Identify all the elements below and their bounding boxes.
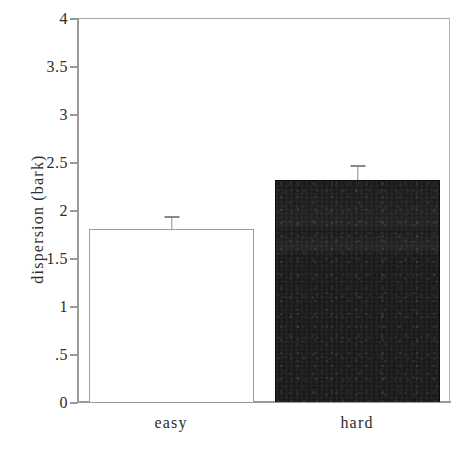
y-tick-label-2: 2 bbox=[32, 203, 68, 219]
y-tick-label-0: 0 bbox=[32, 395, 68, 411]
error-bar-stem bbox=[357, 165, 358, 180]
y-tick-label-3-5: 3.5 bbox=[32, 59, 68, 75]
error-bar-easy bbox=[164, 216, 179, 229]
x-tick-label-hard: hard bbox=[287, 414, 427, 432]
y-tick-label-2-5: 2.5 bbox=[32, 155, 68, 171]
y-tick-label-3: 3 bbox=[32, 107, 68, 123]
y-axis-line bbox=[77, 18, 79, 403]
y-tick-label-4: 4 bbox=[32, 11, 68, 27]
error-bar-stem bbox=[171, 216, 172, 229]
bar-hard bbox=[275, 180, 440, 402]
error-bar-hard bbox=[350, 165, 365, 180]
y-tick-label-0-5: .5 bbox=[32, 347, 68, 363]
error-bar-cap bbox=[164, 216, 179, 218]
bar-easy bbox=[89, 229, 254, 402]
x-tick-label-easy: easy bbox=[101, 414, 241, 432]
error-bar-cap bbox=[350, 165, 365, 167]
y-tick-label-1-5: 1.5 bbox=[32, 251, 68, 267]
y-axis-tick-labels: 4 3.5 3 2.5 2 1.5 1 .5 0 bbox=[28, 0, 68, 450]
bar-chart-figure: dispersion (bark) 4 3.5 3 2.5 2 1.5 1 .5… bbox=[0, 0, 464, 450]
y-tick-label-1: 1 bbox=[32, 299, 68, 315]
